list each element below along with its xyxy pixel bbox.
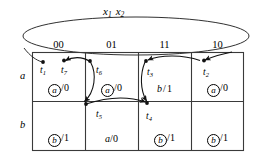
cell-b-01-output: 0 [113,133,118,144]
dot-t7 [62,59,66,63]
transition-label-t1: t1 [40,66,46,76]
column-header-01: 01 [85,40,138,51]
column-header-00: 00 [32,40,85,51]
t1-sub: 1 [43,69,46,76]
cell-b-11: b/1 [138,133,191,147]
arrow-t3-feed [148,56,200,61]
cell-b-11-state: b [154,134,167,147]
cell-a-00: a/0 [32,83,85,97]
cell-b-10-state: b [207,134,220,147]
cell-b-00-output: 1 [64,132,69,143]
input-variable-caption: x1x2 [103,6,124,18]
dot-t1 [41,60,45,64]
cell-a-01-output: 0 [117,82,122,93]
cell-a-01-state: a [101,84,114,97]
dot-t6 [88,59,92,63]
cell-a-11-output: 1 [167,83,172,94]
arrow-t7 [66,58,91,62]
flow-table-figure: x1x2 00 01 11 10 a b a/0 a/0 b/1 a/0 b/1… [0,0,262,155]
column-header-10: 10 [191,40,244,51]
caption-sub1: 1 [108,10,112,19]
cell-a-00-state: a [48,84,61,97]
t4-sub: 4 [149,115,152,122]
cell-a-10-state: a [207,84,220,97]
cell-a-10-output: 0 [223,82,228,93]
cell-a-10: a/0 [191,83,244,97]
dot-t2 [202,59,206,63]
row-header-b: b [20,120,25,131]
dot-t4 [145,101,149,105]
t2-sub: 2 [206,71,209,78]
arrow-t3 [141,62,146,101]
t7-sub: 7 [64,69,67,76]
dot-t5 [84,102,88,106]
cell-b-00: b/1 [32,133,85,147]
cell-b-10: b/1 [191,133,244,147]
transition-label-t3: t3 [147,68,153,78]
dot-t3 [144,59,148,63]
cell-b-11-output: 1 [170,132,175,143]
cell-b-01: a/0 [85,134,138,144]
cell-a-01: a/0 [85,83,138,97]
cell-b-10-output: 1 [223,132,228,143]
column-header-11: 11 [138,40,191,51]
transition-label-t6: t6 [96,66,102,76]
transition-label-t2: t2 [203,68,209,78]
transition-label-t7: t7 [61,66,67,76]
t3-sub: 3 [150,71,153,78]
transition-label-t4: t4 [146,112,152,122]
transition-label-t5: t5 [96,110,102,120]
cell-a-00-output: 0 [64,82,69,93]
caption-sub2: 2 [121,10,125,19]
t6-sub: 6 [99,69,102,76]
arrow-t5 [86,98,146,104]
cell-a-11: b/1 [138,84,191,94]
t5-sub: 5 [99,113,102,120]
row-header-a: a [20,71,25,82]
cell-b-00-state: b [48,134,61,147]
arrow-t2 [205,52,232,60]
